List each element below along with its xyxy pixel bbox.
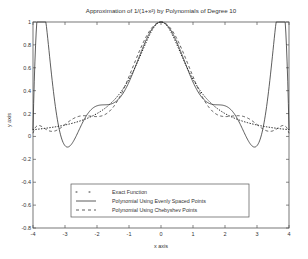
y-tick-label: -0.4 — [22, 179, 31, 185]
chart-title: Approximation of 1/(1+x²) by Polynomials… — [86, 7, 237, 14]
x-tick-label: 1 — [191, 231, 194, 237]
x-tick-label: -3 — [63, 231, 68, 237]
y-tick-label: -0.2 — [22, 156, 31, 162]
x-tick-label: -2 — [95, 231, 100, 237]
y-axis-label: y axis — [6, 113, 12, 127]
series-evenly-spaced — [33, 22, 289, 147]
x-tick-label: 3 — [255, 231, 258, 237]
y-tick-label: 0.4 — [23, 88, 31, 94]
legend: Exact Function Polynomial Using Evenly S… — [71, 184, 249, 217]
y-tick-label: 0.2 — [23, 111, 31, 117]
x-tick-label: 4 — [287, 231, 290, 237]
x-tick-label: -1 — [127, 231, 132, 237]
y-tick-label: 0.8 — [23, 42, 31, 48]
legend-label: Exact Function — [112, 189, 147, 195]
chart-figure: Approximation of 1/(1+x²) by Polynomials… — [0, 0, 308, 259]
y-tick-label: 1 — [28, 19, 31, 25]
legend-label: Polynomial Using Evenly Spaced Points — [112, 198, 206, 204]
y-tick-label: 0 — [28, 133, 31, 139]
x-tick-label: 0 — [159, 231, 162, 237]
x-tick-label: 2 — [223, 231, 226, 237]
y-tick-label: -0.8 — [22, 225, 31, 231]
y-tick-label: -0.6 — [22, 202, 31, 208]
y-tick-label: 0.6 — [23, 65, 31, 71]
legend-label: Polynomial Using Chebyshev Points — [112, 207, 197, 213]
x-tick-label: -4 — [31, 231, 36, 237]
x-axis-label: x axis — [154, 243, 168, 249]
series-chebyshev — [33, 22, 289, 133]
curves — [33, 22, 289, 147]
series-exact — [33, 22, 289, 130]
